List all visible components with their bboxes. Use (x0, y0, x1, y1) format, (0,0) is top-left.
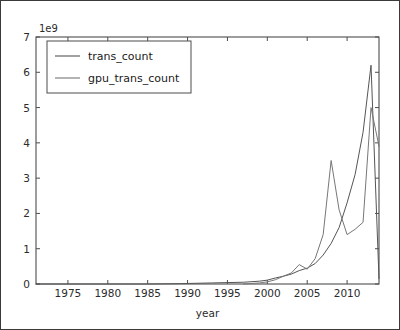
y-tick-label-1: 1 (23, 243, 30, 255)
legend-box (47, 41, 191, 93)
series-line-trans_count (36, 65, 379, 284)
legend-label-trans_count: trans_count (88, 50, 154, 63)
y-axis-offset-text: 1e9 (39, 23, 58, 34)
x-tick-label-1995: 1995 (214, 287, 241, 299)
x-tick-label-1985: 1985 (134, 287, 161, 299)
x-tick-label-1980: 1980 (94, 287, 121, 299)
y-tick-label-4: 4 (23, 137, 30, 149)
y-tick-label-3: 3 (23, 172, 30, 184)
x-axis-label: year (196, 307, 220, 319)
x-tick-label-2005: 2005 (294, 287, 321, 299)
x-tick-label-2000: 2000 (254, 287, 281, 299)
figure-canvas: 1975198019851990199520002005201001234567… (0, 0, 400, 330)
y-tick-label-7: 7 (23, 31, 30, 43)
plot-area: 1975198019851990199520002005201001234567… (1, 1, 400, 330)
y-tick-label-0: 0 (23, 278, 30, 290)
x-tick-label-1975: 1975 (55, 287, 82, 299)
y-tick-label-6: 6 (23, 66, 30, 78)
y-tick-label-5: 5 (23, 102, 30, 114)
x-tick-label-2010: 2010 (334, 287, 361, 299)
line-chart: 1975198019851990199520002005201001234567… (1, 1, 400, 330)
legend-label-gpu_trans_count: gpu_trans_count (88, 72, 180, 85)
y-tick-label-2: 2 (23, 207, 30, 219)
x-tick-label-1990: 1990 (174, 287, 201, 299)
series-line-gpu_trans_count (243, 108, 379, 284)
